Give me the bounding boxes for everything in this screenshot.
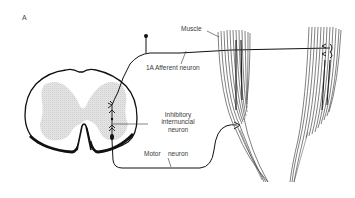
afferent-neuron-label: 1A Afferent neuron (146, 64, 200, 71)
muscle-right (290, 27, 341, 182)
motor-neuron-label: neuron (168, 150, 188, 157)
spindle-endings (322, 44, 332, 58)
motor-label: Motor (144, 150, 161, 157)
stretch-reflex-diagram (0, 0, 355, 198)
inhibitory-line-3: neuron (150, 126, 206, 133)
muscle-label: Muscle (181, 25, 202, 32)
afferent-neuron (108, 34, 330, 108)
inhibitory-line-2: internuncial (150, 118, 206, 125)
inhibitory-line-1: Inhibitory (150, 111, 206, 118)
muscle-left (218, 30, 268, 182)
muscle-leader (207, 31, 219, 37)
spinal-cord-section (25, 69, 137, 152)
ganglion-cell-body (144, 34, 148, 38)
panel-label: A (22, 14, 27, 22)
inhibitory-neuron-label: Inhibitory internuncial neuron (150, 111, 206, 133)
